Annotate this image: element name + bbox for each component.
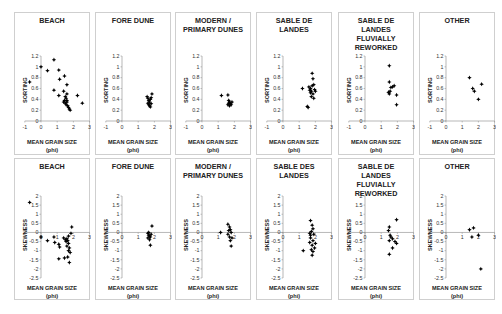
y-axis-label: SKEWNESS bbox=[183, 219, 189, 251]
y-tick-label: -0.5 bbox=[434, 238, 443, 244]
x-tick-label: 1 bbox=[217, 234, 220, 240]
y-tick-label: -2 bbox=[34, 266, 39, 272]
y-tick-label: 0.2 bbox=[355, 107, 362, 113]
y-tick-label: 1 bbox=[36, 211, 39, 217]
x-tick-label: 2 bbox=[314, 234, 317, 240]
chart-panel: FORE DUNE00.20.40.60.811.2-10123SORTINGM… bbox=[95, 12, 171, 155]
y-tick-label: 1.5 bbox=[31, 202, 38, 208]
y-tick-label: 0.4 bbox=[355, 96, 362, 102]
y-tick-label: 0 bbox=[36, 118, 39, 124]
chart-panel: MODERN / PRIMARY DUNES-2.5-2-1.5-1-0.500… bbox=[175, 158, 251, 300]
y-tick-label: -1 bbox=[276, 247, 281, 253]
y-tick-label: 1 bbox=[197, 211, 200, 217]
x-tick-label: 2 bbox=[153, 124, 156, 130]
y-tick-label: 2 bbox=[117, 193, 120, 199]
y-tick-label: 0 bbox=[36, 229, 39, 235]
y-tick-label: 0.5 bbox=[112, 220, 119, 226]
y-tick-label: 0.6 bbox=[31, 85, 38, 91]
y-tick-label: 1.2 bbox=[112, 53, 119, 59]
data-point bbox=[470, 235, 474, 239]
y-tick-label: 1.2 bbox=[31, 53, 38, 59]
y-tick-label: 1 bbox=[117, 211, 120, 217]
x-axis-unit: (phi) bbox=[176, 147, 250, 153]
y-tick-label: 0.8 bbox=[273, 74, 280, 80]
y-tick-label: -1 bbox=[195, 247, 200, 253]
data-point bbox=[479, 82, 483, 86]
y-tick-label: 0.5 bbox=[273, 220, 280, 226]
x-axis-label: MEAN GRAIN SIZE bbox=[96, 284, 170, 292]
y-tick-label: 0 bbox=[360, 118, 363, 124]
data-point bbox=[387, 238, 391, 242]
data-point bbox=[310, 243, 314, 247]
data-point bbox=[229, 244, 233, 248]
x-tick-label: 1 bbox=[298, 234, 301, 240]
y-axis-label: SKEWNESS bbox=[103, 219, 109, 251]
data-point bbox=[219, 93, 223, 97]
y-tick-label: -2.5 bbox=[271, 275, 280, 281]
x-tick-label: 1 bbox=[56, 234, 59, 240]
x-axis-unit: (phi) bbox=[96, 293, 170, 299]
y-tick-label: 0.2 bbox=[436, 107, 443, 113]
x-tick-label: 3 bbox=[412, 234, 415, 240]
x-tick-label: 0 bbox=[282, 234, 285, 240]
y-axis-label: SKEWNESS bbox=[22, 219, 28, 251]
y-tick-label: -2.5 bbox=[434, 275, 443, 281]
y-tick-label: -1 bbox=[34, 247, 39, 253]
y-tick-label: 1.5 bbox=[112, 202, 119, 208]
data-point bbox=[57, 68, 61, 72]
x-tick-label: 3 bbox=[493, 234, 496, 240]
y-tick-label: -1.5 bbox=[190, 257, 199, 263]
data-point bbox=[390, 246, 394, 250]
data-point bbox=[394, 93, 398, 97]
x-tick-label: 1 bbox=[461, 124, 464, 130]
chart-panel: FORE DUNE-2.5-2-1.5-1-0.500.511.520123SK… bbox=[95, 158, 171, 300]
y-tick-label: 1 bbox=[360, 64, 363, 70]
data-point bbox=[148, 243, 152, 247]
y-tick-label: -2.5 bbox=[110, 275, 119, 281]
y-tick-label: 0.5 bbox=[436, 220, 443, 226]
y-tick-label: 0.4 bbox=[192, 96, 199, 102]
data-point bbox=[479, 267, 483, 271]
x-tick-label: 2 bbox=[396, 234, 399, 240]
data-point bbox=[57, 77, 61, 81]
y-tick-label: -0.5 bbox=[29, 238, 38, 244]
x-axis-unit: (phi) bbox=[257, 293, 331, 299]
data-point bbox=[150, 224, 154, 228]
x-tick-label: -1 bbox=[22, 124, 27, 130]
y-tick-label: -2.5 bbox=[29, 275, 38, 281]
x-axis-label: MEAN GRAIN SIZE bbox=[176, 138, 250, 146]
data-point bbox=[53, 240, 57, 244]
data-point bbox=[387, 80, 391, 84]
chart-panel: SABLE DE LANDES00.20.40.60.811.2-10123SO… bbox=[256, 12, 332, 155]
x-tick-label: 3 bbox=[330, 124, 333, 130]
data-point bbox=[67, 260, 71, 264]
data-point bbox=[80, 101, 84, 105]
x-tick-label: 1 bbox=[56, 124, 59, 130]
x-axis-unit: (phi) bbox=[15, 293, 89, 299]
x-tick-label: -1 bbox=[264, 124, 269, 130]
y-tick-label: 1 bbox=[278, 211, 281, 217]
data-point bbox=[301, 248, 305, 252]
data-point bbox=[150, 92, 154, 96]
y-tick-label: -1.5 bbox=[29, 257, 38, 263]
data-point bbox=[394, 103, 398, 107]
data-point bbox=[300, 86, 304, 90]
data-point bbox=[387, 252, 391, 256]
y-tick-label: 0.2 bbox=[31, 107, 38, 113]
chart-panel: SABLE DES LANDES-2.5-2-1.5-1-0.500.511.5… bbox=[256, 158, 332, 300]
x-tick-label: 3 bbox=[330, 234, 333, 240]
x-tick-label: 2 bbox=[72, 124, 75, 130]
x-tick-label: 0 bbox=[282, 124, 285, 130]
y-tick-label: 1.2 bbox=[436, 53, 443, 59]
y-tick-label: 0 bbox=[278, 118, 281, 124]
data-point bbox=[313, 241, 317, 245]
y-tick-label: -2 bbox=[439, 266, 444, 272]
y-tick-label: 0.5 bbox=[192, 220, 199, 226]
y-tick-label: 2 bbox=[441, 193, 444, 199]
x-tick-label: 0 bbox=[445, 124, 448, 130]
x-tick-label: 0 bbox=[364, 234, 367, 240]
y-tick-label: 0.4 bbox=[436, 96, 443, 102]
y-tick-label: -2.5 bbox=[353, 275, 362, 281]
chart-panel: BEACH-2.5-2-1.5-1-0.500.511.520123SKEWNE… bbox=[14, 158, 90, 300]
y-tick-label: -2 bbox=[195, 266, 200, 272]
